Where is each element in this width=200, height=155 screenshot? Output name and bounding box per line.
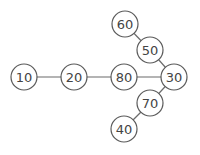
node-label: 40 — [116, 122, 133, 137]
node-label: 30 — [166, 70, 183, 85]
node-label: 60 — [117, 17, 134, 32]
node-50: 50 — [137, 37, 163, 63]
node-label: 70 — [142, 96, 159, 111]
node-80: 80 — [111, 64, 137, 90]
node-10: 10 — [11, 64, 37, 90]
node-label: 10 — [16, 70, 33, 85]
node-70: 70 — [137, 90, 163, 116]
node-40: 40 — [111, 116, 137, 142]
graph-diagram: 1020803060507040 — [0, 0, 200, 155]
node-30: 30 — [161, 64, 187, 90]
node-60: 60 — [112, 11, 138, 37]
node-label: 50 — [142, 43, 159, 58]
node-20: 20 — [61, 64, 87, 90]
node-label: 20 — [66, 70, 83, 85]
node-label: 80 — [116, 70, 133, 85]
